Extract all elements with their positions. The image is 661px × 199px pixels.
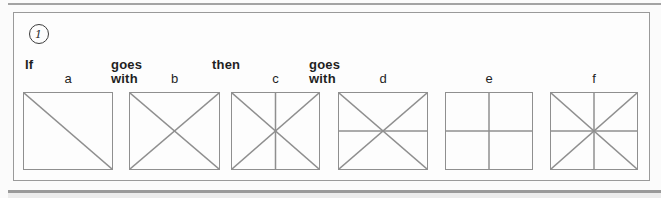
x-vertical-pattern-icon [232, 93, 319, 169]
x-pattern-icon [130, 93, 219, 169]
scanned-test-page: 1 If goes with then goes with a b c d e … [0, 0, 661, 198]
prompt-then: then [212, 58, 240, 72]
question-number: 1 [35, 29, 42, 40]
box-label-d: d [338, 72, 428, 86]
pattern-box-d[interactable] [338, 92, 428, 170]
next-panel-edge [8, 193, 661, 199]
box-label-e: e [445, 72, 533, 86]
pattern-box-e[interactable] [445, 92, 533, 170]
box-label-f: f [550, 72, 638, 86]
box-label-a: a [23, 72, 113, 86]
question-number-badge: 1 [29, 24, 49, 44]
x-cross-pattern-icon [551, 93, 637, 169]
x-horizontal-pattern-icon [339, 93, 427, 169]
previous-panel-bottom-rule [8, 3, 661, 5]
box-label-c: c [231, 72, 320, 86]
prompt-if: If [25, 58, 33, 72]
pattern-box-f[interactable] [550, 92, 638, 170]
pattern-box-b[interactable] [129, 92, 220, 170]
diagonal-pattern-icon [24, 93, 112, 169]
box-label-b: b [129, 72, 220, 86]
pattern-box-c[interactable] [231, 92, 320, 170]
pattern-box-a[interactable] [23, 92, 113, 170]
cross-pattern-icon [446, 93, 532, 169]
